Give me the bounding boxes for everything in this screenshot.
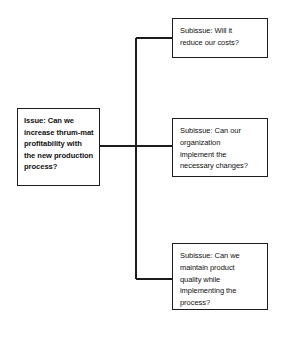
subissue-box-2: Subissue: Can our organization implement… xyxy=(172,118,268,177)
subissue-box-3: Subissue: Can we maintain product qualit… xyxy=(172,243,268,310)
subissue-box-3-label: Subissue: Can we maintain product qualit… xyxy=(180,250,261,309)
subissue-box-1: Subissue: Will it reduce our costs? xyxy=(172,18,268,58)
issue-box: Issue: Can we increase thrum-mat profita… xyxy=(17,108,100,186)
issue-box-label: Issue: Can we increase thrum-mat profita… xyxy=(24,115,94,173)
subissue-box-1-label: Subissue: Will it reduce our costs? xyxy=(180,25,261,49)
issue-tree-diagram: Issue: Can we increase thrum-mat profita… xyxy=(0,0,282,337)
subissue-box-2-label: Subissue: Can our organization implement… xyxy=(180,125,261,172)
